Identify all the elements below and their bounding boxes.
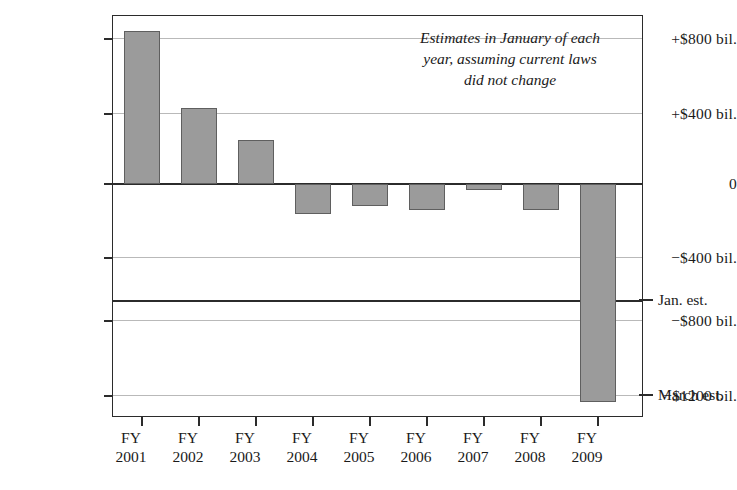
- bar-fy-2009: [580, 184, 616, 402]
- x-tick-mark: [540, 417, 542, 426]
- x-label-year: 2009: [552, 447, 622, 466]
- jan-estimate-tick: [639, 299, 653, 301]
- annotation-line: year, assuming current laws: [396, 48, 624, 69]
- gridline-neg1200: [113, 395, 642, 396]
- chart-figure: +$800 bil. +$400 bil. 0 −$400 bil. −$800…: [0, 0, 737, 490]
- y-tick-label: +$800 bil.: [633, 31, 737, 47]
- y-tick-label: 0: [633, 176, 737, 192]
- x-tick-mark: [483, 417, 485, 426]
- x-label-prefix: FY: [552, 428, 622, 447]
- bar-fy-2008: [523, 184, 559, 210]
- bar-fy-2006: [409, 184, 445, 210]
- x-label-fy-2009: FY 2009: [552, 428, 622, 466]
- x-tick-mark: [426, 417, 428, 426]
- march-estimate-label: March est.: [658, 387, 723, 403]
- jan-estimate-line: [113, 300, 642, 302]
- plot-area: Estimates in January of each year, assum…: [112, 15, 643, 417]
- x-tick-mark: [255, 417, 257, 426]
- x-tick-mark: [597, 417, 599, 426]
- annotation-line: did not change: [396, 69, 624, 90]
- annotation-line: Estimates in January of each: [396, 27, 624, 48]
- x-tick-mark: [312, 417, 314, 426]
- y-tick-label: −$400 bil.: [633, 250, 737, 266]
- gridline-neg400: [113, 257, 642, 258]
- x-tick-mark: [198, 417, 200, 426]
- y-tick-label: +$400 bil.: [633, 106, 737, 122]
- y-tick-label: −$800 bil.: [633, 313, 737, 329]
- x-tick-mark: [369, 417, 371, 426]
- bar-fy-2007: [466, 184, 502, 190]
- bar-fy-2002: [181, 108, 217, 184]
- bar-fy-2005: [352, 184, 388, 206]
- bar-fy-2004: [295, 184, 331, 214]
- bar-fy-2001: [124, 31, 160, 184]
- x-tick-mark: [141, 417, 143, 426]
- gridline-neg800: [113, 320, 642, 321]
- jan-estimate-label: Jan. est.: [658, 292, 708, 308]
- bar-fy-2003: [238, 140, 274, 184]
- chart-annotation: Estimates in January of each year, assum…: [396, 27, 624, 90]
- march-estimate-tick: [639, 394, 653, 396]
